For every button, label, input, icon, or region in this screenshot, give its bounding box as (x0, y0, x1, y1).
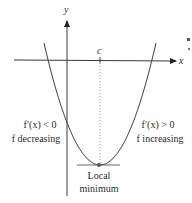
local-minimum-label-line1: Local (88, 170, 111, 181)
right-derivative-condition: f′(x) > 0 (142, 119, 175, 131)
minimum-point (97, 163, 101, 167)
left-derivative-condition: f′(x) < 0 (24, 119, 57, 131)
right-behavior: f increasing (137, 133, 184, 144)
c-label: c (97, 45, 102, 56)
local-minimum-label-line2: minimum (80, 183, 119, 194)
y-axis-label: y (63, 4, 69, 15)
left-behavior: f decreasing (12, 133, 61, 144)
local-minimum-diagram: x y c f′(x) < 0 f decreasing f′(x) > 0 f… (0, 0, 192, 203)
cutoff-mark (188, 48, 190, 50)
x-axis-label: x (178, 55, 184, 66)
cutoff-mark (187, 38, 190, 41)
